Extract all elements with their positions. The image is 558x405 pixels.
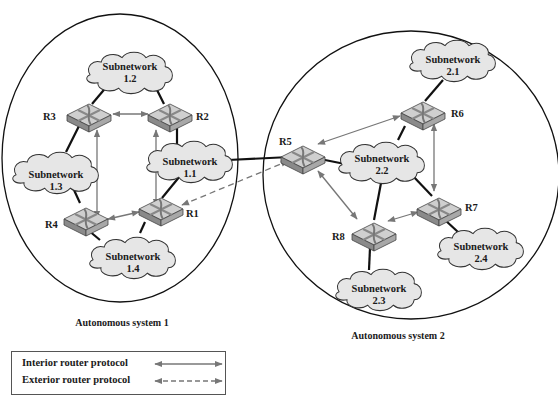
router-r3-icon bbox=[67, 104, 111, 132]
as1-label: Autonomous system 1 bbox=[75, 317, 168, 328]
router-r4-label: R4 bbox=[45, 219, 59, 230]
subnetwork-1-2-label: Subnetwork bbox=[103, 61, 158, 72]
subnetwork-2-4-label: Subnetwork bbox=[454, 241, 509, 252]
subnetwork-2-3-label: Subnetwork bbox=[352, 283, 407, 294]
router-r4-icon bbox=[64, 208, 108, 236]
subnetwork-1-1-number: 1.1 bbox=[183, 168, 196, 179]
subnetwork-2-4-number: 2.4 bbox=[474, 253, 488, 264]
subnetwork-1-3-number: 1.3 bbox=[49, 181, 62, 192]
network-diagram: Subnetwork 1.2 Subnetwork 1.1 Subnetwork… bbox=[0, 0, 558, 405]
subnetwork-1-2-number: 1.2 bbox=[123, 73, 136, 84]
router-r6-label: R6 bbox=[451, 108, 464, 119]
router-r8-icon bbox=[352, 223, 396, 251]
router-r7-label: R7 bbox=[465, 202, 478, 213]
legend: Interior router protocol Exterior router… bbox=[11, 351, 226, 395]
router-r5-label: R5 bbox=[279, 136, 292, 147]
subnetwork-2-3-number: 2.3 bbox=[372, 295, 385, 306]
subnetwork-2-2-label: Subnetwork bbox=[355, 153, 410, 164]
router-r1-label: R1 bbox=[186, 208, 199, 219]
subnetwork-1-1-label: Subnetwork bbox=[163, 156, 218, 167]
router-r2-icon bbox=[148, 104, 192, 132]
subnetwork-2-1-label: Subnetwork bbox=[426, 54, 481, 65]
router-r8-label: R8 bbox=[332, 231, 345, 242]
subnetwork-2-2-number: 2.2 bbox=[375, 165, 388, 176]
router-r7-icon bbox=[417, 198, 461, 226]
router-r3-label: R3 bbox=[43, 111, 56, 122]
router-r2-label: R2 bbox=[196, 111, 209, 122]
router-r6-icon bbox=[401, 102, 445, 130]
router-r5-icon bbox=[281, 146, 325, 174]
as2-label: Autonomous system 2 bbox=[351, 330, 444, 341]
subnetwork-2-1-number: 2.1 bbox=[446, 66, 459, 77]
subnetwork-1-3-label: Subnetwork bbox=[29, 169, 84, 180]
subnetwork-1-4-number: 1.4 bbox=[126, 263, 140, 274]
router-r1-icon bbox=[139, 198, 183, 226]
subnetwork-1-4-label: Subnetwork bbox=[106, 251, 161, 262]
